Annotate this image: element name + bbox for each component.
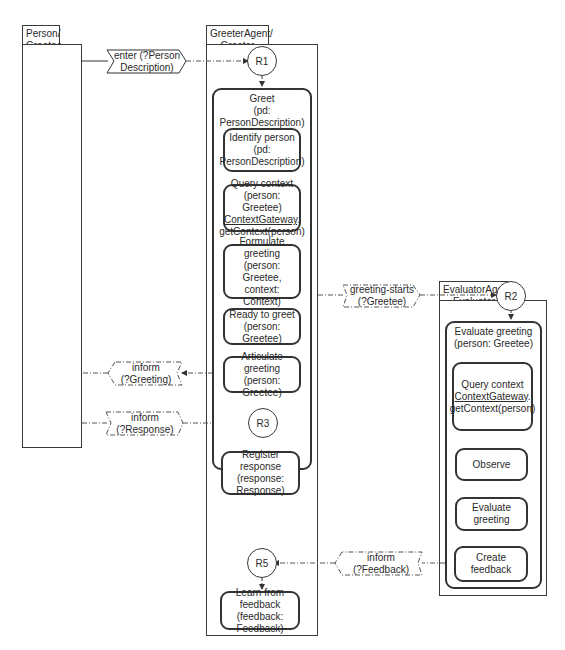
activity-eval-query-line1: Query context — [461, 379, 523, 391]
activity-evaluate-line1: Evaluate — [472, 502, 511, 514]
goal-evaluate-param: (person: Greetee) — [447, 338, 540, 350]
activity-register-line1: Register response — [226, 449, 295, 473]
message-greeting-starts-line1: greeting-starts — [350, 284, 414, 296]
activity-create-line1: Create — [476, 552, 506, 564]
role-node-r2[interactable]: R2 — [496, 281, 526, 311]
activity-articulate-line2: greeting — [244, 363, 280, 375]
message-inform-feedback-line1: inform — [367, 552, 395, 564]
role-node-r5[interactable]: R5 — [247, 548, 277, 578]
activity-ready-to-greet[interactable]: Ready to greet (person: Greetee) — [223, 308, 301, 345]
activity-eval-query-line3: getContext(person) — [450, 403, 536, 415]
goal-evaluate-title: Evaluate greeting — [447, 326, 540, 338]
activity-learn-line3: (feedback: Feedback) — [225, 611, 295, 635]
activity-identify-line2: (pd: — [253, 144, 270, 156]
activity-formulate-line4: context: Context) — [228, 284, 296, 308]
role-node-r2-label: R2 — [505, 291, 518, 302]
activity-query-line3: ContextGateway. — [224, 214, 300, 226]
activity-ready-line1: Ready to greet — [229, 309, 295, 321]
activity-identify-line1: Identify person — [229, 132, 295, 144]
activity-ready-line2: (person: Greetee) — [228, 321, 296, 345]
activity-eval-query-context[interactable]: Query context ContextGateway. getContext… — [452, 362, 533, 431]
goal-greet-param: (pd: PersonDescription) — [214, 105, 310, 129]
activity-register-response[interactable]: Register response (response: Response) — [221, 451, 300, 495]
activity-create-feedback[interactable]: Create feedback — [454, 546, 528, 582]
role-node-r1[interactable]: R1 — [247, 46, 277, 76]
activity-observe-label: Observe — [473, 459, 511, 471]
message-inform-response-line2: (?Response) — [116, 424, 173, 436]
role-node-r3[interactable]: R3 — [248, 408, 278, 438]
eval-context-gateway-link[interactable]: ContextGateway — [455, 391, 528, 402]
role-node-r1-label: R1 — [256, 56, 269, 67]
role-node-r3-label: R3 — [257, 418, 270, 429]
activity-register-line2: (response: — [237, 473, 284, 485]
activity-eval-query-dot: . — [528, 391, 531, 402]
message-inform-greeting-line1: inform — [132, 362, 160, 374]
activity-identify-person[interactable]: Identify person (pd: PersonDescription) — [223, 128, 301, 172]
context-gateway-link[interactable]: ContextGateway — [224, 214, 297, 225]
activity-register-line3: Response) — [236, 485, 284, 497]
message-enter-line1: enter (?Person — [114, 50, 180, 62]
activity-evaluate-greeting[interactable]: Evaluate greeting — [455, 497, 528, 531]
message-inform-response[interactable]: inform (?Response) — [110, 412, 180, 435]
message-greeting-starts[interactable]: greeting-starts (?Greetee) — [346, 285, 418, 307]
message-inform-response-line1: inform — [131, 412, 159, 424]
activity-observe[interactable]: Observe — [455, 448, 528, 481]
activity-articulate-line3: (person: Greetee) — [228, 375, 296, 399]
activity-evaluate-line2: greeting — [473, 514, 509, 526]
activity-create-line2: feedback — [471, 564, 512, 576]
activity-formulate-line3: (person: Greetee, — [228, 260, 296, 284]
message-inform-feedback[interactable]: inform (?Feedback) — [342, 552, 420, 575]
activity-learn-line1: Learn from — [236, 587, 284, 599]
message-inform-greeting-line2: (?Greeting) — [121, 374, 172, 386]
activity-learn-line2: feedback — [240, 599, 281, 611]
activity-query-context[interactable]: Query context (person: Greetee) ContextG… — [223, 184, 301, 232]
message-enter[interactable]: enter (?Person Description) — [112, 50, 182, 73]
activity-articulate-line1: Articulate — [241, 351, 283, 363]
activity-query-line1: Query context — [231, 178, 293, 190]
activity-query-dot: . — [297, 214, 300, 225]
activity-formulate-line1: Formulate — [239, 236, 284, 248]
message-inform-greeting[interactable]: inform (?Greeting) — [112, 362, 180, 385]
activity-formulate-greeting[interactable]: Formulate greeting (person: Greetee, con… — [223, 244, 301, 299]
message-greeting-starts-line2: (?Greetee) — [358, 296, 406, 308]
message-enter-line2: Description) — [120, 62, 173, 74]
role-node-r5-label: R5 — [256, 558, 269, 569]
activity-articulate-greeting[interactable]: Articulate greeting (person: Greetee) — [223, 356, 301, 393]
activity-eval-query-line2: ContextGateway. — [455, 391, 531, 403]
activity-query-line2: (person: Greetee) — [228, 190, 296, 214]
activity-identify-line3: PersonDescription) — [219, 156, 304, 168]
activity-formulate-line2: greeting — [244, 248, 280, 260]
goal-greet-title: Greet — [214, 93, 310, 105]
activity-learn-from-feedback[interactable]: Learn from feedback (feedback: Feedback) — [220, 591, 300, 630]
message-inform-feedback-line2: (?Feedback) — [353, 564, 409, 576]
